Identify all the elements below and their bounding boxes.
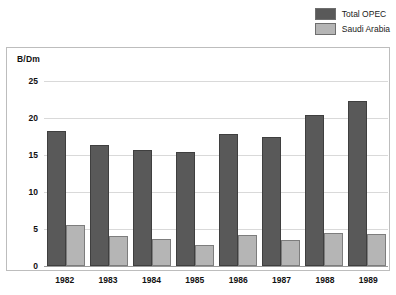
bars-layer xyxy=(44,81,388,266)
bar-group xyxy=(305,81,343,266)
y-axis-tick-label: 25 xyxy=(29,76,38,86)
y-axis-tick-label: 20 xyxy=(29,113,38,123)
x-axis-labels: 19821983198419851986198719881989 xyxy=(43,275,390,285)
chart-container: Total OPEC Saudi Arabia B/Dm 0510152025 … xyxy=(0,0,396,295)
bar-group xyxy=(90,81,128,266)
legend-swatch-icon xyxy=(315,8,336,20)
bar xyxy=(348,101,367,266)
bar-group xyxy=(133,81,171,266)
bar xyxy=(152,239,171,266)
bar-group xyxy=(348,81,386,266)
legend-label: Saudi Arabia xyxy=(342,23,390,35)
bar xyxy=(238,235,257,266)
x-axis-tick-label: 1983 xyxy=(88,275,128,285)
chart-legend: Total OPEC Saudi Arabia xyxy=(315,8,390,35)
bar-group xyxy=(262,81,300,266)
bar xyxy=(367,234,386,266)
bar xyxy=(219,134,238,266)
x-axis-tick-label: 1987 xyxy=(262,275,302,285)
y-axis-tick-label: 10 xyxy=(29,187,38,197)
bar xyxy=(195,245,214,266)
bar xyxy=(281,240,300,266)
legend-item-total-opec: Total OPEC xyxy=(315,8,390,20)
x-axis-tick-label: 1989 xyxy=(348,275,388,285)
legend-label: Total OPEC xyxy=(342,8,386,20)
x-axis-tick-label: 1988 xyxy=(305,275,345,285)
x-axis-tick-label: 1982 xyxy=(45,275,85,285)
bar xyxy=(262,137,281,266)
bar xyxy=(109,236,128,266)
x-axis-tick-label: 1984 xyxy=(131,275,171,285)
bar-group xyxy=(176,81,214,266)
x-axis-tick-label: 1986 xyxy=(218,275,258,285)
y-axis-tick-label: 5 xyxy=(33,224,38,234)
plot-area: 0510152025 xyxy=(44,81,388,266)
bar xyxy=(305,115,324,266)
legend-swatch-icon xyxy=(315,23,336,35)
x-axis-tick-label: 1985 xyxy=(175,275,215,285)
bar-group xyxy=(47,81,85,266)
y-axis-tick-label: 15 xyxy=(29,150,38,160)
bar xyxy=(133,150,152,266)
legend-item-saudi-arabia: Saudi Arabia xyxy=(315,23,390,35)
bar xyxy=(90,145,109,266)
y-axis-tick-label: 0 xyxy=(33,261,38,271)
y-axis-unit-label: B/Dm xyxy=(17,54,40,64)
plot-frame: B/Dm 0510152025 xyxy=(6,47,390,271)
gridline: 0 xyxy=(44,266,388,267)
bar-group xyxy=(219,81,257,266)
bar xyxy=(176,152,195,266)
bar xyxy=(47,131,66,266)
bar xyxy=(324,233,343,266)
bar xyxy=(66,225,85,266)
